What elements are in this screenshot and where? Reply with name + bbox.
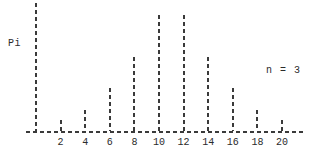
x-tick-label: 14 (197, 137, 219, 148)
data-spike (256, 110, 258, 131)
data-spike (133, 57, 135, 131)
x-tick-label: 8 (123, 137, 145, 148)
plot-area: Pi n = 3 2468101214161820 (0, 0, 322, 156)
x-tick-label: 20 (271, 137, 293, 148)
chart-annotation: n = 3 (266, 65, 301, 77)
x-tick-label: 10 (148, 137, 170, 148)
x-tick-label: 6 (99, 137, 121, 148)
x-axis-line (26, 131, 305, 133)
data-spike (60, 120, 62, 131)
data-spike (158, 15, 160, 131)
data-spike (183, 15, 185, 131)
x-tick-label: 2 (50, 137, 72, 148)
data-spike (281, 120, 283, 131)
data-spike (109, 88, 111, 131)
y-axis-label: Pi (8, 38, 21, 50)
chart-figure: Pi n = 3 2468101214161820 (0, 0, 322, 156)
data-spike (207, 57, 209, 131)
x-tick-label: 18 (246, 137, 268, 148)
data-spike (84, 110, 86, 131)
data-spike (35, 3, 37, 131)
data-spike (232, 88, 234, 131)
x-tick-label: 12 (173, 137, 195, 148)
x-tick-label: 16 (222, 137, 244, 148)
x-tick-label: 4 (74, 137, 96, 148)
